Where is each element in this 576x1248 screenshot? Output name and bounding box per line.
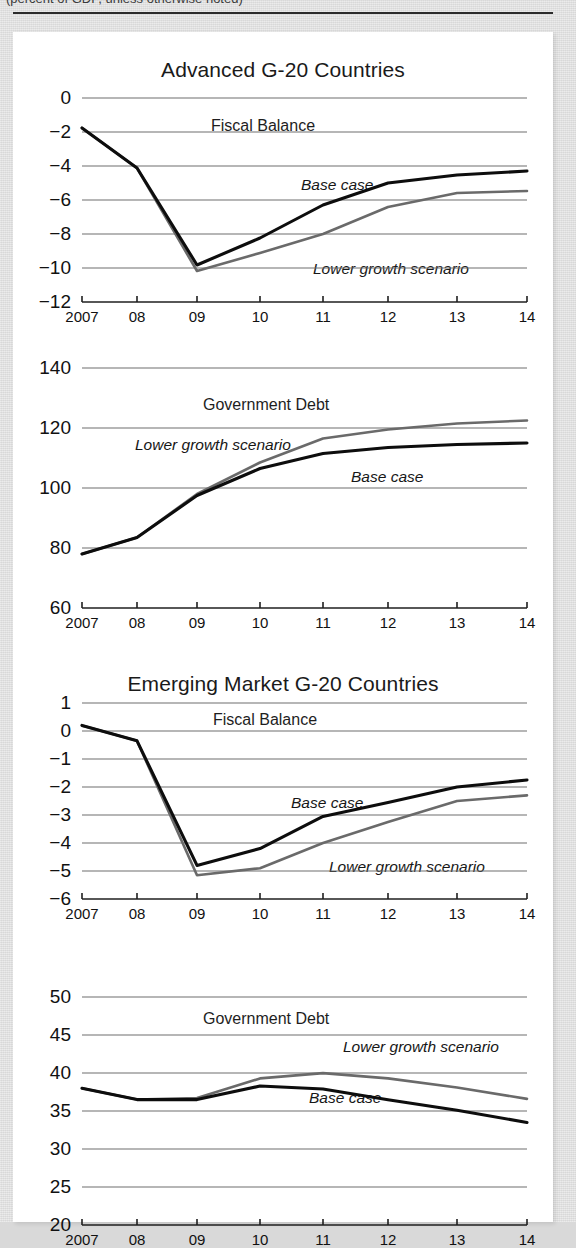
x-tick: 12 bbox=[380, 308, 397, 325]
x-tick: 11 bbox=[315, 614, 331, 631]
x-tick: 2007 bbox=[65, 1231, 98, 1248]
chart-emerging-fiscal-balance: Emerging Market G-20 Countries Fiscal Ba… bbox=[13, 652, 553, 972]
x-tick: 12 bbox=[380, 614, 397, 631]
x-tick: 08 bbox=[129, 308, 146, 325]
plot-area-1 bbox=[13, 32, 553, 342]
x-tick: 12 bbox=[380, 1231, 397, 1248]
x-tick: 2007 bbox=[65, 614, 98, 631]
x-tick: 11 bbox=[315, 1231, 331, 1248]
page-caption: (percent of GDP, unless otherwise noted) bbox=[6, 0, 243, 6]
x-tick: 08 bbox=[129, 905, 146, 922]
x-tick: 13 bbox=[449, 1231, 466, 1248]
chart-emerging-government-debt: Government Debt Lower growth scenario Ba… bbox=[13, 972, 553, 1222]
x-tick: 10 bbox=[252, 1231, 269, 1248]
plot-area-3 bbox=[13, 652, 553, 972]
x-tick: 09 bbox=[189, 1231, 206, 1248]
x-tick: 14 bbox=[519, 1231, 536, 1248]
x-tick: 11 bbox=[315, 905, 331, 922]
x-tick: 10 bbox=[252, 614, 269, 631]
plot-area-2 bbox=[13, 342, 553, 642]
x-tick: 2007 bbox=[65, 308, 98, 325]
x-tick: 09 bbox=[189, 308, 206, 325]
x-tick: 09 bbox=[189, 614, 206, 631]
x-tick: 13 bbox=[449, 308, 466, 325]
figure-panel: Advanced G-20 Countries Fiscal Balance B… bbox=[13, 32, 553, 1222]
caption-clip: (percent of GDP, unless otherwise noted) bbox=[0, 0, 576, 9]
x-tick: 10 bbox=[252, 308, 269, 325]
header-rule bbox=[13, 12, 553, 14]
x-tick: 08 bbox=[129, 1231, 146, 1248]
x-tick: 2007 bbox=[65, 905, 98, 922]
plot-area-4 bbox=[13, 972, 553, 1222]
x-tick: 13 bbox=[449, 905, 466, 922]
x-tick: 14 bbox=[519, 905, 536, 922]
x-tick: 12 bbox=[380, 905, 397, 922]
chart-advanced-fiscal-balance: Advanced G-20 Countries Fiscal Balance B… bbox=[13, 32, 553, 342]
x-tick: 13 bbox=[449, 614, 466, 631]
x-tick: 14 bbox=[519, 308, 536, 325]
x-tick: 10 bbox=[252, 905, 269, 922]
chart-advanced-government-debt: Government Debt Lower growth scenario Ba… bbox=[13, 342, 553, 642]
x-tick: 14 bbox=[519, 614, 536, 631]
x-tick: 09 bbox=[189, 905, 206, 922]
x-tick: 08 bbox=[129, 614, 146, 631]
x-tick: 11 bbox=[315, 308, 331, 325]
